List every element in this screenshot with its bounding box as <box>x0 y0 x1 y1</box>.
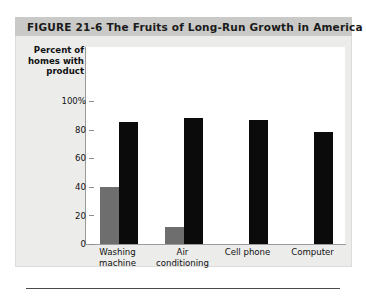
x-axis-label-air-conditioning: Airconditioning <box>150 247 215 268</box>
bar-1960-washing-machine <box>100 187 119 244</box>
x-axis-label-computer: Computer <box>280 247 345 268</box>
y-tick-20: 20 <box>30 215 94 216</box>
y-axis-label-line-1: Percent of <box>22 45 84 56</box>
y-tick-label: 100% <box>61 97 86 106</box>
x-axis-line <box>86 244 346 245</box>
x-axis-label-line: machine <box>85 258 150 269</box>
figure-title-banner: FIGURE 21-6 The Fruits of Long-Run Growt… <box>15 17 352 36</box>
y-tick-label: 60 <box>75 154 86 163</box>
bar-2011-cell-phone <box>249 120 268 244</box>
y-tick-0: 0 <box>30 244 94 245</box>
y-tick-100: 100% <box>30 101 94 102</box>
bar-group-washing-machine <box>86 47 151 244</box>
bottom-divider <box>26 288 340 289</box>
y-axis-label: Percent of homes with product <box>22 45 84 77</box>
y-tick-label: 40 <box>75 183 86 192</box>
y-axis-label-line-3: product <box>22 66 84 77</box>
x-axis-labels: WashingmachineAirconditioningCell phoneC… <box>85 247 345 268</box>
y-tick-60: 60 <box>30 158 94 159</box>
x-axis-label-line: Washing <box>85 247 150 258</box>
bar-group-air-conditioning <box>151 47 216 244</box>
bar-2011-computer <box>314 132 333 244</box>
bar-group-cell-phone <box>216 47 281 244</box>
x-axis-label-line: conditioning <box>150 258 215 269</box>
x-axis-label-washing-machine: Washingmachine <box>85 247 150 268</box>
bar-2011-washing-machine <box>119 122 138 244</box>
y-axis-label-line-2: homes with <box>22 56 84 67</box>
figure-title: FIGURE 21-6 The Fruits of Long-Run Growt… <box>15 21 363 33</box>
x-axis-label-line: Computer <box>280 247 345 258</box>
y-tick-label: 20 <box>75 211 86 220</box>
bar-2011-air-conditioning <box>184 118 203 244</box>
figure-container: FIGURE 21-6 The Fruits of Long-Run Growt… <box>0 0 366 301</box>
x-axis-label-cell-phone: Cell phone <box>215 247 280 268</box>
bar-group-computer <box>281 47 346 244</box>
y-tick-80: 80 <box>30 130 94 131</box>
bar-1960-air-conditioning <box>165 227 184 244</box>
y-tick-40: 40 <box>30 187 94 188</box>
y-tick-mark <box>89 244 94 245</box>
bars-layer <box>86 47 346 244</box>
x-axis-label-line: Air <box>150 247 215 258</box>
plot-area: 100%806040200 <box>85 47 345 244</box>
x-axis-label-line: Cell phone <box>215 247 280 258</box>
y-tick-label: 80 <box>75 125 86 134</box>
